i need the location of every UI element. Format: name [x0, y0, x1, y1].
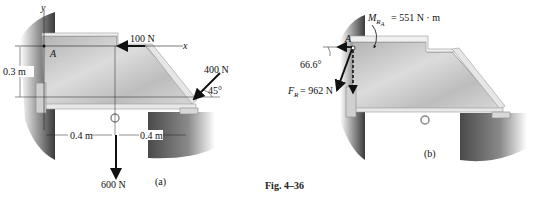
point-a-label: A — [49, 48, 57, 59]
width-dimension-right: 0.4 m — [140, 130, 163, 141]
force-400n-angle: 45° — [208, 85, 222, 96]
panel-a: y x A 0.3 m 100 N 400 N 45° 600 N 0.4 m … — [2, 2, 229, 190]
moment-label: MRA — [367, 12, 385, 27]
figure-canvas: y x A 0.3 m 100 N 400 N 45° 600 N 0.4 m … — [0, 0, 553, 199]
panel-b-label: (b) — [424, 148, 436, 160]
width-dimension-left: 0.4 m — [70, 130, 93, 141]
resultant-angle: 66.6° — [300, 59, 322, 70]
force-400n-label: 400 N — [204, 64, 229, 75]
point-a-b-label: A — [344, 33, 352, 44]
figure-caption: Fig. 4–36 — [265, 180, 304, 191]
x-axis-label: x — [182, 40, 188, 51]
moment-value: = 551 N · m — [391, 12, 440, 23]
force-600n-label: 600 N — [101, 179, 126, 190]
panel-b: MRA = 551 N · m A 66.6° FR = 962 N (b) — [287, 12, 527, 161]
y-axis-label: y — [40, 2, 46, 13]
resultant-value: = 962 N — [300, 85, 333, 96]
height-dimension: 0.3 m — [3, 66, 26, 77]
resultant-label: FR — [287, 85, 299, 99]
panel-a-label: (a) — [155, 176, 166, 188]
force-100n-label: 100 N — [130, 33, 155, 44]
point-a — [43, 45, 46, 48]
